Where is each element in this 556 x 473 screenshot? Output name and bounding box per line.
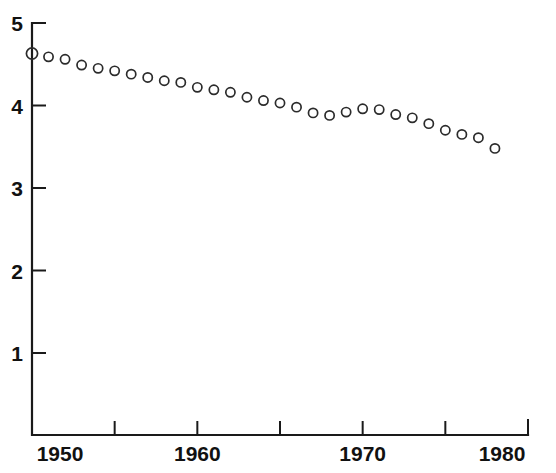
data-point [143,73,152,82]
data-point [209,85,218,94]
data-point [408,113,417,122]
x-tick-label-1950: 1950 [37,442,84,465]
data-point [44,52,53,61]
data-point [160,76,169,85]
data-point [226,88,235,97]
data-point [127,70,136,79]
chart-container: 12345 1950196019701980 [0,0,556,473]
x-axis-ticks [32,419,528,435]
data-point [391,110,400,119]
x-tick-label-1970: 1970 [339,442,386,465]
y-tick-label-2: 2 [11,260,23,283]
y-tick-label-1: 1 [11,342,23,365]
data-point [424,119,433,128]
axis-lines [32,23,528,435]
data-point [110,66,119,75]
data-point [275,98,284,107]
data-point [490,144,499,153]
data-point [259,96,268,105]
y-tick-label-5: 5 [11,12,23,35]
axes [32,23,528,435]
data-point [60,55,69,64]
data-point [94,64,103,73]
y-axis-tick-labels: 12345 [11,12,23,365]
y-tick-label-3: 3 [11,177,23,200]
x-tick-label-1960: 1960 [174,442,221,465]
data-point [375,105,384,114]
data-point [193,83,202,92]
data-point [77,60,86,69]
y-tick-label-4: 4 [11,95,23,118]
data-point [441,126,450,135]
data-point [325,111,334,120]
y-axis-ticks [32,23,46,353]
scatter-plot: 12345 1950196019701980 [0,0,556,473]
data-point [292,103,301,112]
data-point [176,78,185,87]
data-series [26,48,499,153]
data-point [358,104,367,113]
data-point [457,130,466,139]
data-point [242,93,251,102]
x-tick-label-1980: 1980 [479,442,526,465]
data-point [474,133,483,142]
x-axis-tick-labels: 1950196019701980 [37,442,526,465]
data-point [342,108,351,117]
data-point [308,108,317,117]
